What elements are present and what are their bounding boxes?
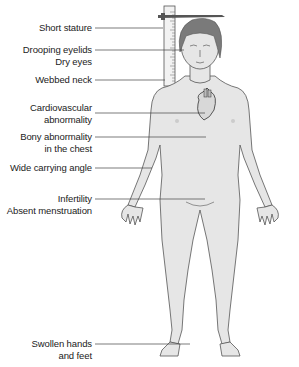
- label-cardiovascular: Cardiovascular abnormality: [30, 102, 92, 125]
- label-infertility: Infertility Absent menstruation: [7, 193, 92, 216]
- label-bony-chest: Bony abnormality in the chest: [20, 131, 92, 154]
- turner-syndrome-figure: Short stature Drooping eyelids Dry eyes …: [0, 0, 299, 367]
- label-short-stature: Short stature: [39, 22, 92, 34]
- body-figure: [122, 21, 279, 356]
- label-swollen-hands-feet: Swollen hands and feet: [32, 338, 93, 361]
- label-carrying-angle: Wide carrying angle: [10, 162, 92, 174]
- label-webbed-neck: Webbed neck: [35, 74, 92, 86]
- label-drooping-eyelids: Drooping eyelids Dry eyes: [23, 44, 92, 67]
